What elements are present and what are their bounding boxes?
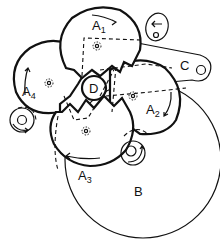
gear-mechanism-diagram: A1 A2 A3 A4 B C D xyxy=(0,0,220,245)
label-b: B xyxy=(134,184,143,199)
label-a3: A3 xyxy=(78,168,92,185)
arm-c-pivot xyxy=(197,66,206,75)
pulley-right-arrow-icon xyxy=(128,146,144,162)
pulley-left-hub xyxy=(18,116,27,125)
cam-arrow-icon xyxy=(152,21,162,27)
label-d: D xyxy=(89,81,98,96)
cam-pivot xyxy=(154,33,159,38)
cam-oval xyxy=(143,11,171,44)
pulley-left xyxy=(10,108,34,132)
pulley-right-hub xyxy=(126,146,136,156)
label-c: C xyxy=(180,58,189,73)
